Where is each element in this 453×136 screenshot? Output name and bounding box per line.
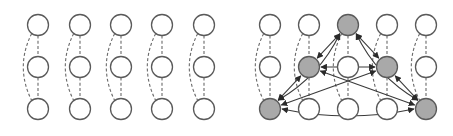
selected-node [260,99,281,120]
selected-node [377,57,398,78]
node [152,99,173,120]
node [416,15,437,36]
node [194,99,215,120]
node [260,57,281,78]
node [299,15,320,36]
panel-independent-chains [23,15,214,120]
selected-node [416,99,437,120]
node [416,57,437,78]
node [28,99,49,120]
node [28,57,49,78]
selected-node [338,15,359,36]
node [70,99,91,120]
bidirectional-arrow [278,76,301,100]
node [299,99,320,120]
node [338,57,359,78]
node [28,15,49,36]
node [260,15,281,36]
node [377,15,398,36]
node [111,57,132,78]
node [152,57,173,78]
node [70,15,91,36]
node [70,57,91,78]
node [338,99,359,120]
bidirectional-arrow [320,71,414,105]
panel-connected-selected-nodes [255,15,436,120]
node [111,15,132,36]
bidirectional-arrow [395,76,418,100]
node [194,57,215,78]
selected-node [299,57,320,78]
diagram-canvas [0,0,453,136]
node [152,15,173,36]
node [194,15,215,36]
node [111,99,132,120]
node [377,99,398,120]
